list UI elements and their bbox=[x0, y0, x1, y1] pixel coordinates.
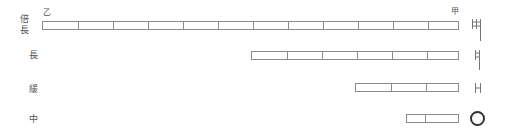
beat-bar-chou bbox=[251, 51, 459, 60]
beat-bar-chuu bbox=[406, 114, 459, 123]
bar-stem-icon bbox=[474, 49, 484, 71]
bar-icon bbox=[474, 82, 484, 94]
end-marker-kou: 甲 bbox=[451, 8, 459, 16]
double-bar-stem-icon bbox=[471, 18, 485, 42]
start-marker-otsu: 乙 bbox=[43, 9, 51, 17]
row-label-chou: 長 bbox=[29, 50, 38, 60]
row-label-chuu: 中 bbox=[29, 114, 38, 124]
beat-bar-baichou bbox=[42, 21, 459, 30]
row-label-baichou-1: 倍 bbox=[20, 14, 29, 24]
row-label-kan: 緩 bbox=[29, 84, 38, 94]
circle-icon bbox=[470, 111, 485, 126]
row-label-baichou-2: 長 bbox=[20, 25, 29, 35]
beat-bar-kan bbox=[355, 83, 459, 92]
